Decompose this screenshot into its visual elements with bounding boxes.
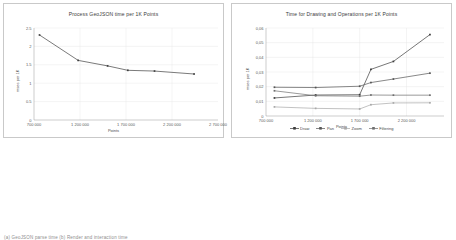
chart-frame-left: Process GeoJSON time per 1K Points msec … — [3, 3, 224, 138]
legend-item-zoom[interactable]: Zoom — [341, 126, 362, 131]
chart-legend: DrawPanZoomFiltering — [232, 126, 451, 131]
legend-marker-icon — [341, 126, 350, 131]
legend-label: Draw — [300, 126, 309, 131]
legend-item-filtering[interactable]: Filtering — [369, 126, 394, 131]
svg-text:0,04: 0,04 — [256, 55, 265, 60]
svg-text:1.5: 1.5 — [26, 62, 32, 67]
svg-text:0,06: 0,06 — [256, 26, 265, 31]
legend-label: Zoom — [352, 126, 362, 131]
svg-text:0,01: 0,01 — [256, 99, 265, 104]
svg-text:2.5: 2.5 — [26, 26, 32, 31]
svg-text:2: 2 — [29, 44, 32, 49]
svg-text:0.5: 0.5 — [26, 99, 32, 104]
chart-panel-geojson-parse: Process GeoJSON time per 1K Points msec … — [0, 0, 228, 140]
legend-label: Pan — [327, 126, 334, 131]
svg-text:2 200 000: 2 200 000 — [398, 118, 417, 123]
chart-panel-drawing-operations: Time for Drawing and Operations per 1K P… — [228, 0, 456, 140]
svg-text:2 200 000: 2 200 000 — [163, 122, 182, 127]
svg-text:2 700 000: 2 700 000 — [209, 122, 228, 127]
chart-frame-right: Time for Drawing and Operations per 1K P… — [231, 3, 452, 138]
legend-marker-icon — [369, 126, 378, 131]
svg-text:0,05: 0,05 — [256, 40, 265, 45]
legend-marker-icon — [290, 126, 299, 131]
svg-text:0,03: 0,03 — [256, 70, 265, 75]
figure-row: Process GeoJSON time per 1K Points msec … — [0, 0, 456, 140]
legend-item-draw[interactable]: Draw — [290, 126, 310, 131]
svg-text:1 700 000: 1 700 000 — [351, 118, 370, 123]
svg-text:0,02: 0,02 — [256, 84, 265, 89]
legend-marker-icon — [316, 126, 325, 131]
svg-text:1 200 000: 1 200 000 — [71, 122, 90, 127]
svg-text:700 000: 700 000 — [27, 122, 42, 127]
svg-text:1: 1 — [29, 81, 32, 86]
svg-text:1 700 000: 1 700 000 — [117, 122, 136, 127]
plot-area-left: 00.511.522.5700 0001 200 0001 700 0002 2… — [4, 4, 230, 142]
svg-text:700 000: 700 000 — [259, 118, 274, 123]
plot-area-right: 00,010,020,030,040,050,06700 0001 200 00… — [232, 4, 456, 142]
legend-label: Filtering — [379, 126, 393, 131]
svg-text:1 200 000: 1 200 000 — [304, 118, 323, 123]
legend-item-pan[interactable]: Pan — [316, 126, 334, 131]
